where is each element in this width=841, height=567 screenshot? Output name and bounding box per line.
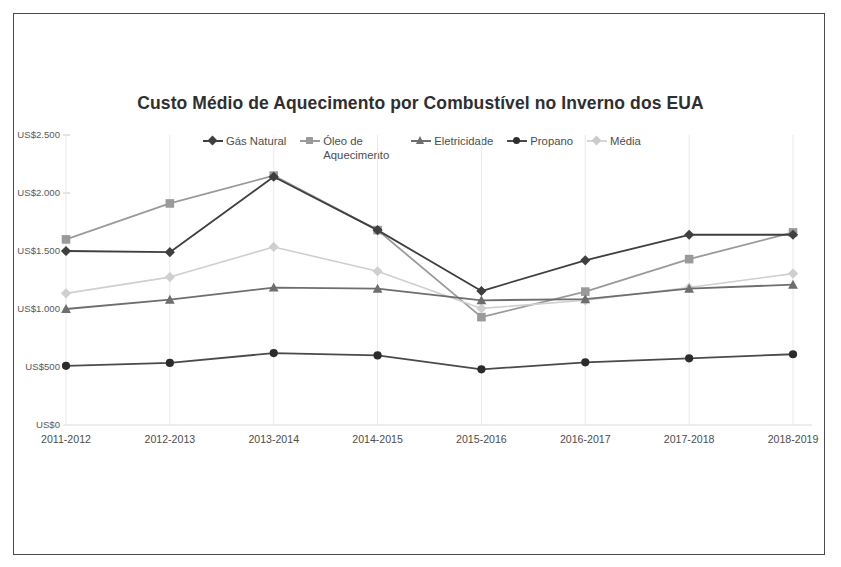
data-point-marker [684,230,694,240]
x-axis-tick-label: 2018-2019 [768,433,819,445]
data-point-marker [685,255,694,264]
y-axis-tick-label: US$2.500 [17,129,60,140]
y-axis-tick-label: US$1.500 [17,245,60,256]
data-point-marker [685,354,693,362]
data-point-marker [61,246,71,256]
chart-svg: US$0US$500US$1.000US$1.500US$2.000US$2.5… [0,0,841,567]
x-axis-tick-label: 2016-2017 [560,433,611,445]
data-point-marker [789,350,797,358]
data-point-marker [270,349,278,357]
data-point-marker [62,235,71,244]
data-point-marker [165,272,175,282]
y-axis-tick-label: US$1.000 [17,303,60,314]
data-point-marker [580,255,590,265]
y-axis-tick-label: US$2.000 [17,187,60,198]
series-line [66,176,793,318]
data-point-marker [477,313,486,322]
x-axis-tick-label: 2012-2013 [145,433,196,445]
x-axis-tick-label: 2013-2014 [248,433,299,445]
y-axis-tick-label: US$500 [25,361,60,372]
data-point-marker [373,351,381,359]
x-axis-tick-label: 2017-2018 [664,433,715,445]
x-axis-tick-label: 2014-2015 [352,433,403,445]
data-point-marker [581,358,589,366]
data-point-marker [372,266,382,276]
chart-card: Custo Médio de Aquecimento por Combustív… [0,0,841,567]
data-point-marker [166,359,174,367]
vertical-gridlines [66,135,793,425]
series-line [66,353,793,369]
y-axis-tick-label: US$0 [36,419,60,430]
x-axis: 2011-20122012-20132013-20142014-20152015… [41,433,818,445]
data-point-marker [476,303,486,313]
data-point-marker [269,242,279,252]
data-point-marker [62,362,70,370]
data-point-marker [477,365,485,373]
data-point-marker [166,199,175,208]
data-point-marker [788,269,798,279]
data-series-group [61,171,798,373]
y-axis: US$0US$500US$1.000US$1.500US$2.000US$2.5… [17,129,70,430]
data-point-marker [476,286,486,296]
x-axis-tick-label: 2011-2012 [41,433,91,445]
x-axis-tick-label: 2015-2016 [456,433,507,445]
data-point-marker [61,288,71,298]
plot-area: US$0US$500US$1.000US$1.500US$2.000US$2.5… [0,0,841,567]
